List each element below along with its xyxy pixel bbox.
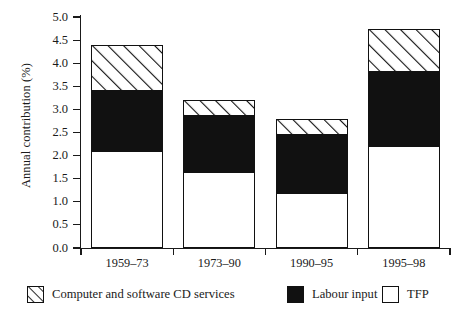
bar-segment-tfp xyxy=(91,151,163,248)
x-tick-label: 1973–90 xyxy=(174,256,264,271)
y-tick-mark xyxy=(73,132,81,133)
x-tick-mark xyxy=(80,249,81,255)
y-tick-mark xyxy=(73,40,81,41)
y-tick-label: 2.5 xyxy=(40,126,68,139)
y-tick-mark xyxy=(73,86,81,87)
legend-label: TFP xyxy=(407,288,429,301)
x-tick-label: 1959–73 xyxy=(82,256,172,271)
bar-segment-labour-input xyxy=(183,116,255,171)
bar-segment-labour-input xyxy=(91,91,163,151)
x-tick-mark xyxy=(265,249,266,255)
x-tick-label: 1990–95 xyxy=(267,256,357,271)
y-tick-label: 5.0 xyxy=(40,11,68,24)
y-tick-label: 0.5 xyxy=(40,218,68,231)
y-tick-label: 4.5 xyxy=(40,34,68,47)
diagonal-hatch-fill xyxy=(27,286,44,303)
x-tick-mark xyxy=(449,249,450,255)
legend-item[interactable]: TFP xyxy=(382,283,429,305)
bar-segment-labour-input xyxy=(276,135,348,193)
chart-legend: Computer and software CD servicesLabour … xyxy=(0,281,466,307)
bar-stack xyxy=(183,17,255,248)
bar-segment-tfp xyxy=(183,172,255,248)
bar-segment-computer-and-software-cd-services xyxy=(276,119,348,135)
x-tick-mark xyxy=(357,249,358,255)
stacked-bar-chart: Annual contribution (%) 0.00.51.01.52.02… xyxy=(0,0,466,324)
bar-segment-computer-and-software-cd-services xyxy=(368,29,440,73)
y-tick-mark xyxy=(73,178,81,179)
x-axis-line xyxy=(73,248,451,249)
diagonal-hatch-fill xyxy=(91,45,163,91)
x-tick-label: 1995–98 xyxy=(359,256,449,271)
legend-item[interactable]: Computer and software CD services xyxy=(27,283,235,305)
y-tick-mark xyxy=(73,109,81,110)
bar-stack xyxy=(91,17,163,248)
bar-stack xyxy=(368,17,440,248)
y-axis-title: Annual contribution (%) xyxy=(19,26,34,226)
legend-item[interactable]: Labour input xyxy=(287,283,377,305)
y-tick-label: 0.0 xyxy=(40,242,68,255)
y-tick-mark xyxy=(73,16,81,17)
bar-segment-tfp xyxy=(276,193,348,248)
y-tick-label: 1.0 xyxy=(40,195,68,208)
y-tick-mark xyxy=(73,201,81,202)
diagonal-hatch-swatch xyxy=(27,286,44,303)
y-tick-label: 3.5 xyxy=(40,80,68,93)
diagonal-hatch-fill xyxy=(368,29,440,73)
bar-segment-tfp xyxy=(368,146,440,248)
y-tick-label: 4.0 xyxy=(40,57,68,70)
bar-segment-computer-and-software-cd-services xyxy=(91,45,163,91)
y-tick-label: 1.5 xyxy=(40,172,68,185)
white-swatch xyxy=(382,286,399,303)
solid-black-swatch xyxy=(287,286,304,303)
diagonal-hatch-fill xyxy=(183,100,255,116)
y-tick-mark xyxy=(73,224,81,225)
y-tick-mark xyxy=(73,155,81,156)
bar-segment-computer-and-software-cd-services xyxy=(183,100,255,116)
y-tick-mark xyxy=(73,63,81,64)
y-tick-label: 3.0 xyxy=(40,103,68,116)
x-tick-mark xyxy=(173,249,174,255)
y-tick-label: 2.0 xyxy=(40,149,68,162)
legend-label: Computer and software CD services xyxy=(52,288,235,301)
legend-label: Labour input xyxy=(312,288,377,301)
diagonal-hatch-fill xyxy=(276,119,348,135)
bar-segment-labour-input xyxy=(368,72,440,146)
bar-stack xyxy=(276,17,348,248)
